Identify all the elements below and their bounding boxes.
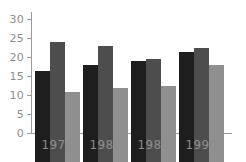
y-tick-25 [27,38,32,39]
y-tick-5 [27,114,32,115]
y-tick-20 [27,57,32,58]
y-tick-label-0: 0 [0,128,24,139]
y-tick-label-15: 15 [0,71,24,82]
y-tick-15 [27,76,32,77]
x-axis-label-1985: 1985 [131,139,176,151]
y-tick-label-30: 30 [0,14,24,25]
x-axis-label-1980: 1980 [83,139,128,151]
y-tick-label-25: 25 [0,33,24,44]
y-tick-30 [27,19,32,20]
bar-chart: 30 25 20 15 10 5 0 1975 1980 1985 1990 [0,0,246,162]
y-axis-line [31,12,32,134]
y-tick-10 [27,95,32,96]
y-tick-label-20: 20 [0,52,24,63]
x-axis-label-1990: 1990 [179,139,224,151]
x-axis-label-1975: 1975 [35,139,80,151]
y-tick-label-10: 10 [0,90,24,101]
y-tick-0 [27,133,32,134]
y-tick-label-5: 5 [0,109,24,120]
